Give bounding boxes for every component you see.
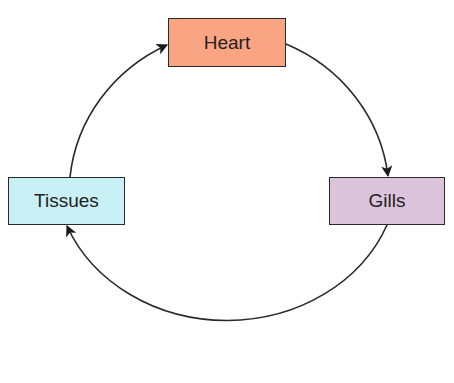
arrow-heart-to-gills [286, 44, 388, 176]
heart-node: Heart [168, 18, 286, 67]
arrow-gills-to-tissues [67, 225, 387, 320]
tissues-label: Tissues [34, 190, 99, 212]
tissues-node: Tissues [8, 177, 125, 225]
heart-label: Heart [204, 32, 250, 54]
gills-label: Gills [369, 190, 406, 212]
arrow-tissues-to-heart [70, 45, 167, 177]
gills-node: Gills [329, 177, 445, 225]
